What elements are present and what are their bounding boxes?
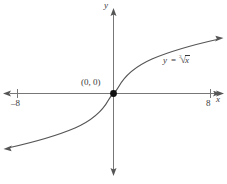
coordinate-plane <box>0 0 227 184</box>
x-tick-label-eight: 8 <box>206 99 211 108</box>
origin-point-marker <box>110 90 117 97</box>
curve-arrow-lower-left <box>4 146 13 152</box>
function-equation-label: y = 3 √ x <box>163 55 190 65</box>
radical-index: 3 <box>179 54 182 59</box>
equation-equals-sign: = <box>171 56 176 65</box>
y-axis-label: y <box>104 1 108 10</box>
x-axis-label: x <box>216 95 220 104</box>
origin-point-label: (0, 0) <box>81 78 101 87</box>
x-tick-label-negative-eight: –8 <box>11 99 20 108</box>
radicand: x <box>185 55 190 65</box>
x-axis-arrow-left <box>3 91 11 97</box>
equation-left-side: y <box>163 56 167 65</box>
cube-root-radical: 3 √ x <box>179 55 190 65</box>
cube-root-function-graph: y x –8 8 (0, 0) y = 3 √ x <box>0 0 227 184</box>
curve-arrow-upper-right <box>215 36 224 42</box>
